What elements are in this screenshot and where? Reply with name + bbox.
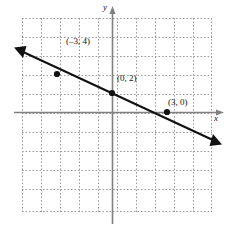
point-label-0-2: (0, 2) bbox=[117, 73, 137, 83]
coordinate-plane-svg bbox=[0, 0, 231, 228]
y-axis-arrowhead bbox=[109, 6, 115, 14]
grid-vertical-lines bbox=[23, 18, 212, 212]
point-label-3-0: (3, 0) bbox=[168, 97, 188, 107]
point-3-0 bbox=[164, 109, 170, 115]
line-arrowhead-upper-left bbox=[14, 46, 27, 58]
graph-figure: (–3, 4) (0, 2) (3, 0) y x bbox=[0, 0, 231, 228]
grid-lines bbox=[22, 18, 212, 212]
point-label-neg3-4: (–3, 4) bbox=[66, 36, 90, 46]
line-arrowhead-lower-right bbox=[210, 134, 223, 146]
y-axis-label: y bbox=[103, 2, 107, 12]
point-0-2 bbox=[109, 90, 115, 96]
point-neg3-4 bbox=[54, 71, 60, 77]
x-axis-label: x bbox=[214, 113, 218, 123]
axes bbox=[14, 6, 224, 224]
